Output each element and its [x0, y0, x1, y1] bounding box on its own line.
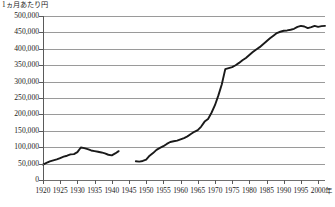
- gridline: [43, 82, 325, 83]
- gridline: [43, 65, 325, 66]
- x-axis-tick-label: 1955: [156, 186, 171, 195]
- line-chart: 1ヵ月あたり円 500,000450,000400,000350,000300,…: [0, 0, 335, 207]
- x-axis-tick: [163, 180, 164, 184]
- y-axis-tick: [39, 131, 44, 132]
- x-axis-tick: [318, 180, 319, 184]
- y-axis-tick-label: 250,000: [1, 94, 39, 102]
- x-axis-tick-label: 1945: [122, 186, 137, 195]
- y-axis-tick-label: 100,000: [1, 143, 39, 151]
- y-axis-tick: [39, 98, 44, 99]
- x-axis-tick: [301, 180, 302, 184]
- plot-area: [43, 16, 325, 180]
- x-axis-tick-label: 1995: [294, 186, 309, 195]
- y-axis-tick-labels: 500,000450,000400,000350,000300,000250,0…: [0, 0, 39, 207]
- gridline: [43, 147, 325, 148]
- x-axis-tick: [77, 180, 78, 184]
- x-axis-tick-label: 1970: [208, 186, 223, 195]
- y-axis-tick-label: 150,000: [1, 127, 39, 135]
- x-axis-tick-label: 1985: [259, 186, 274, 195]
- x-axis-tick: [267, 180, 268, 184]
- y-axis-tick: [39, 114, 44, 115]
- y-axis-tick: [39, 16, 44, 17]
- x-axis-tick-label: 1930: [70, 186, 85, 195]
- y-axis-tick-label: 50,000: [1, 160, 39, 168]
- y-axis-tick-label: 300,000: [1, 78, 39, 86]
- y-axis-tick-label: 400,000: [1, 45, 39, 53]
- x-axis-tick: [112, 180, 113, 184]
- y-axis-tick-label: 500,000: [1, 12, 39, 20]
- x-axis-tick: [43, 180, 44, 184]
- x-axis-tick: [146, 180, 147, 184]
- gridline: [43, 164, 325, 165]
- gridline: [43, 98, 325, 99]
- gridline: [43, 114, 325, 115]
- gridline: [43, 32, 325, 33]
- y-axis-tick-label: 450,000: [1, 28, 39, 36]
- x-axis-tick: [60, 180, 61, 184]
- x-axis-tick: [95, 180, 96, 184]
- y-axis-tick-label: 350,000: [1, 61, 39, 69]
- gridline: [43, 49, 325, 50]
- x-axis-tick-label: 1975: [225, 186, 240, 195]
- y-axis-tick: [39, 32, 44, 33]
- y-axis-tick: [39, 147, 44, 148]
- y-axis-tick: [39, 65, 44, 66]
- x-axis-tick-label: 1990: [276, 186, 291, 195]
- x-axis-tick: [232, 180, 233, 184]
- y-axis-tick-label: 200,000: [1, 110, 39, 118]
- y-axis-tick-label: 0: [1, 176, 39, 184]
- x-axis-tick-label: 1920: [36, 186, 51, 195]
- y-axis-tick: [39, 49, 44, 50]
- gridline: [43, 131, 325, 132]
- x-axis-tick: [181, 180, 182, 184]
- x-axis-tick: [215, 180, 216, 184]
- x-axis-tick: [249, 180, 250, 184]
- x-axis-tick-label: 1965: [190, 186, 205, 195]
- x-axis-unit-label: 年: [325, 186, 332, 195]
- gridline: [43, 16, 325, 17]
- y-axis-tick: [39, 82, 44, 83]
- x-axis-tick: [284, 180, 285, 184]
- y-axis-tick: [39, 164, 44, 165]
- x-axis-tick-label: 1950: [139, 186, 154, 195]
- x-axis-tick-label: 2000: [311, 186, 326, 195]
- x-axis-tick-label: 1935: [87, 186, 102, 195]
- gridline: [43, 180, 325, 181]
- x-axis-tick-label: 1940: [104, 186, 119, 195]
- x-axis-tick: [129, 180, 130, 184]
- x-axis-tick-label: 1980: [242, 186, 257, 195]
- x-axis-tick-label: 1960: [173, 186, 188, 195]
- x-axis-tick: [198, 180, 199, 184]
- x-axis-tick-label: 1925: [53, 186, 68, 195]
